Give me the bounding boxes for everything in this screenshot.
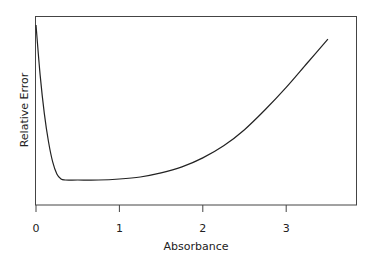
relative-error-curve xyxy=(36,25,328,180)
x-tick-label: 1 xyxy=(116,222,123,235)
x-axis-ticks xyxy=(36,205,286,212)
x-tick-label: 3 xyxy=(283,222,290,235)
y-axis-label: Relative Error xyxy=(18,72,31,147)
x-tick-label: 2 xyxy=(199,222,206,235)
plot-frame xyxy=(36,17,357,206)
chart: 0123 Absorbance Relative Error xyxy=(0,0,373,261)
x-axis-tick-labels: 0123 xyxy=(33,222,290,235)
x-axis-label: Absorbance xyxy=(163,240,228,253)
x-tick-label: 0 xyxy=(33,222,40,235)
